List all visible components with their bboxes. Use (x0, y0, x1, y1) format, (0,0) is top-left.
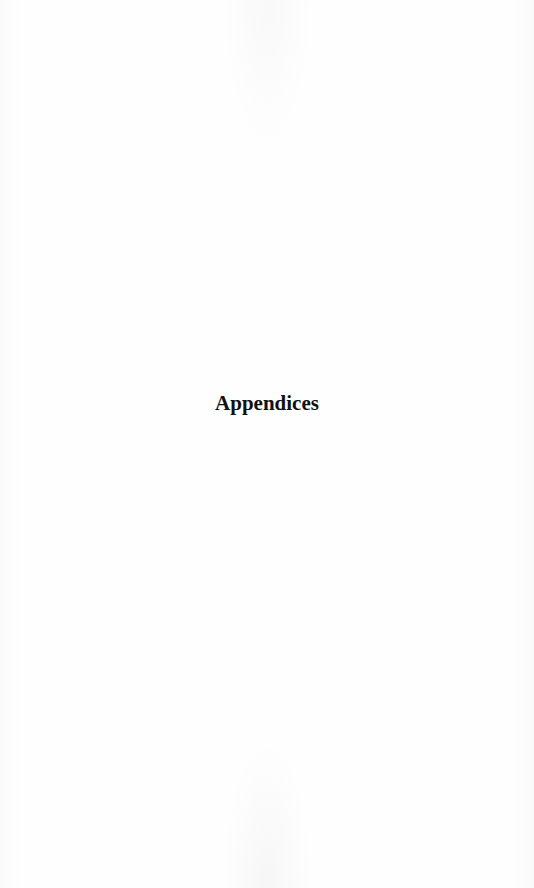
section-title: Appendices (0, 389, 534, 417)
document-page: Appendices (0, 0, 534, 888)
